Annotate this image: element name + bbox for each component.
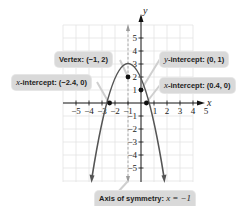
svg-text:−1: −1	[127, 111, 137, 121]
y-intercept-value: (0, 1)	[207, 55, 225, 64]
x-axis-label: x	[206, 97, 212, 108]
axis-value: = −1	[172, 193, 191, 203]
svg-text:−4: −4	[127, 150, 137, 160]
axis-var: x	[166, 193, 170, 203]
svg-text:−2: −2	[110, 106, 120, 116]
svg-text:−4: −4	[84, 106, 94, 116]
parabola-graph: −5 −4 −3 −2 −1 1 2 3 4 5 5 4 3 2 1 −1 −2…	[0, 0, 251, 206]
svg-text:2: 2	[133, 72, 138, 82]
svg-text:−5: −5	[71, 106, 81, 116]
x-intercept-right-point	[144, 101, 149, 106]
vertex-callout: Vertex: (−1, 2)	[55, 52, 112, 67]
svg-text:−5: −5	[127, 163, 137, 173]
svg-text:5: 5	[133, 33, 138, 43]
curve-arrow-left	[90, 175, 95, 184]
axis-of-symmetry-callout: Axis of symmetry: x = −1	[95, 191, 195, 206]
vertex-point	[126, 75, 131, 80]
y-axis	[139, 14, 144, 182]
vertex-label: Vertex:	[59, 55, 84, 64]
svg-text:1: 1	[153, 106, 158, 116]
x-intercept-left-label: -intercept:	[20, 78, 57, 87]
y-intercept-label: -intercept:	[168, 55, 205, 64]
svg-text:−3: −3	[127, 137, 137, 147]
x-tick-labels: −5 −4 −3 −2 −1 1 2 3 4 5	[71, 106, 209, 116]
x-axis	[63, 101, 205, 106]
svg-text:1: 1	[133, 85, 138, 95]
svg-text:4: 4	[133, 46, 138, 56]
curve-arrow-right	[162, 175, 167, 184]
svg-text:2: 2	[165, 106, 170, 116]
axis-label: Axis of symmetry:	[99, 194, 164, 203]
x-intercept-right-value: (0.4, 0)	[207, 81, 231, 90]
svg-text:3: 3	[178, 106, 183, 116]
x-intercept-right-label: -intercept:	[168, 81, 205, 90]
svg-text:4: 4	[191, 106, 196, 116]
svg-text:−2: −2	[127, 124, 137, 134]
y-intercept-callout: y-intercept: (0, 1)	[160, 52, 228, 67]
x-intercept-left-value: (−2.4, 0)	[59, 78, 87, 87]
x-intercept-left-callout: x-intercept: (−2.4, 0)	[12, 75, 91, 90]
x-intercept-right-callout: x-intercept: (0.4, 0)	[160, 78, 235, 93]
y-axis-label: y	[142, 5, 148, 16]
y-intercept-point	[139, 88, 144, 93]
x-intercept-left-point	[107, 101, 112, 106]
vertex-value: (−1, 2)	[86, 55, 108, 64]
